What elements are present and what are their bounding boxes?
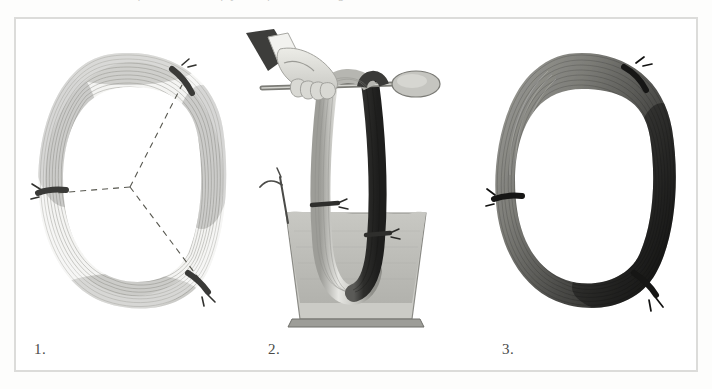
figure-2-hand bbox=[246, 29, 338, 100]
cropped-caption-text: of the hank of yarn for shading bbox=[130, 0, 347, 2]
figure-2-stirring-twig bbox=[260, 168, 288, 223]
figure-3-label: 3. bbox=[502, 341, 514, 358]
figure-2-drawing bbox=[244, 27, 459, 327]
figure-2-dipping-hank-in-vat bbox=[244, 27, 459, 327]
figure-1-skein-body bbox=[30, 47, 240, 317]
figure-3-skein-body bbox=[486, 49, 696, 319]
cropped-caption-bleed: of the hank of yarn for shading bbox=[0, 0, 712, 9]
figure-1-label: 1. bbox=[34, 341, 46, 358]
figure-3-drawing bbox=[486, 49, 686, 319]
illustration-plate-frame: 1. 2. 3. bbox=[14, 17, 698, 372]
figure-3-shaded-dyed-hank bbox=[486, 49, 686, 319]
figure-1-drawing bbox=[30, 47, 240, 317]
scanned-plate-page: of the hank of yarn for shading bbox=[0, 0, 712, 389]
figure-2-label: 2. bbox=[268, 341, 280, 358]
figure-1-undyed-hank bbox=[30, 47, 240, 317]
figure-2-dye-vat bbox=[286, 211, 426, 327]
